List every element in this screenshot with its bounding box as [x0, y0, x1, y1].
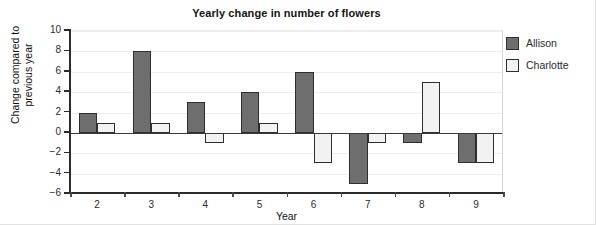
y-tick-mark [64, 152, 70, 154]
legend-label: Allison [526, 37, 557, 49]
bar [368, 133, 386, 143]
legend-swatch-icon [506, 59, 519, 72]
bar [133, 51, 151, 133]
y-axis-title-line-1: Change compared to [9, 20, 22, 130]
bar [259, 123, 277, 133]
y-tick-mark [64, 111, 70, 113]
bar [476, 133, 494, 164]
y-axis-title: Change compared to previous year [9, 20, 35, 130]
bar [349, 133, 367, 184]
x-tick-label: 4 [178, 199, 232, 210]
x-tick-label: 7 [341, 199, 395, 210]
bar [295, 72, 313, 133]
bar [403, 133, 421, 143]
y-axis-title-line-2: previous year [22, 20, 35, 130]
bar [151, 123, 169, 133]
chart-title: Yearly change in number of flowers [70, 7, 503, 19]
x-tick-mark [178, 192, 180, 197]
x-tick-mark [70, 192, 72, 197]
y-tick-label: 2 [55, 107, 61, 117]
y-tick-mark [64, 172, 70, 174]
x-tick-label: 6 [287, 199, 341, 210]
y-tick-label: 6 [55, 66, 61, 76]
legend-swatch-icon [506, 37, 519, 50]
y-tick-label: −2 [50, 147, 61, 157]
chart-figure: Yearly change in number of flowers 10864… [0, 0, 596, 225]
x-tick-mark [287, 192, 289, 197]
plot-area [70, 30, 503, 193]
gridline [70, 31, 502, 32]
bar [97, 123, 115, 133]
x-tick-label: 9 [449, 199, 503, 210]
y-tick-label: 8 [55, 45, 61, 55]
bar [458, 133, 476, 164]
y-tick-label: 4 [55, 86, 61, 96]
y-tick-mark [64, 29, 70, 31]
x-tick-mark [503, 192, 505, 197]
x-tick-label: 8 [395, 199, 449, 210]
x-tick-mark [124, 192, 126, 197]
y-tick-label: −4 [50, 168, 61, 178]
y-tick-label: 0 [55, 127, 61, 137]
x-axis-title: Year [70, 210, 503, 222]
bar [187, 102, 205, 133]
bar [241, 92, 259, 133]
legend-item-charlotte[interactable]: Charlotte [506, 55, 592, 75]
x-tick-mark [232, 192, 234, 197]
gridline [70, 153, 502, 154]
x-tick-label: 3 [124, 199, 178, 210]
bar [422, 82, 440, 133]
bar [79, 113, 97, 133]
legend-label: Charlotte [526, 59, 569, 71]
bar [314, 133, 332, 164]
chart-legend: AllisonCharlotte [506, 33, 592, 77]
y-tick-label: 10 [50, 25, 61, 35]
y-tick-mark [64, 90, 70, 92]
zero-line [70, 133, 502, 135]
x-tick-mark [449, 192, 451, 197]
x-tick-label: 5 [232, 199, 286, 210]
y-tick-mark [64, 50, 70, 52]
y-tick-label: −6 [50, 188, 61, 198]
bar [205, 133, 223, 143]
y-tick-mark [64, 70, 70, 72]
x-tick-mark [395, 192, 397, 197]
gridline [70, 174, 502, 175]
x-tick-mark [341, 192, 343, 197]
x-tick-label: 2 [70, 199, 124, 210]
legend-item-allison[interactable]: Allison [506, 33, 592, 53]
